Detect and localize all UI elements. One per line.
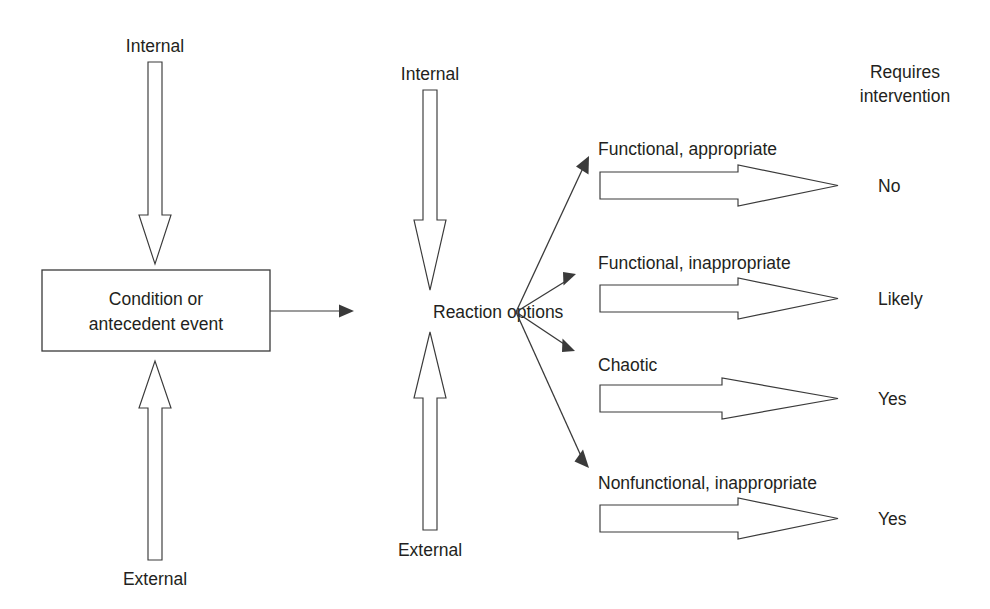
flow-diagram: Internal Condition or antecedent event E…: [0, 0, 990, 609]
requires-intervention-header-line-2: intervention: [860, 86, 950, 106]
outcome-arrow-1: [600, 278, 838, 319]
branch-arrowhead-functional-inappropriate: [563, 272, 576, 286]
middle-internal-label: Internal: [401, 64, 459, 84]
outcome-label-2: Chaotic: [598, 355, 658, 375]
box-to-reaction-arrowhead: [339, 305, 354, 318]
outcome-label-3: Nonfunctional, inappropriate: [598, 473, 817, 493]
outcome-label-0: Functional, appropriate: [598, 139, 777, 159]
left-external-label: External: [123, 569, 187, 589]
outcome-intervention-2: Yes: [878, 389, 907, 409]
branch-arrowhead-nonfunctional-inappropriate: [575, 450, 590, 469]
branch-line-functional-appropriate: [516, 168, 583, 312]
outcome-arrow-3: [600, 498, 838, 539]
outcome-arrow-0: [600, 165, 838, 206]
middle-external-up-arrow: [414, 332, 446, 530]
outcome-arrow-2: [600, 378, 838, 419]
left-internal-down-arrow: [139, 62, 171, 264]
branch-arrowhead-functional-appropriate: [576, 156, 589, 175]
left-external-up-arrow: [139, 361, 171, 560]
left-internal-label: Internal: [126, 36, 184, 56]
middle-internal-down-arrow: [414, 90, 446, 290]
condition-box-line-2: antecedent event: [89, 314, 223, 334]
outcome-intervention-3: Yes: [878, 509, 907, 529]
requires-intervention-header-line-1: Requires: [870, 62, 940, 82]
condition-box: [42, 270, 270, 351]
outcome-intervention-0: No: [878, 176, 900, 196]
outcome-intervention-1: Likely: [878, 289, 923, 309]
diagram-canvas: Internal Condition or antecedent event E…: [0, 0, 990, 609]
middle-external-label: External: [398, 540, 462, 560]
condition-box-line-1: Condition or: [109, 289, 204, 309]
outcome-label-1: Functional, inappropriate: [598, 253, 791, 273]
reaction-options-label: Reaction options: [433, 302, 564, 322]
branch-arrowhead-chaotic: [562, 339, 575, 353]
